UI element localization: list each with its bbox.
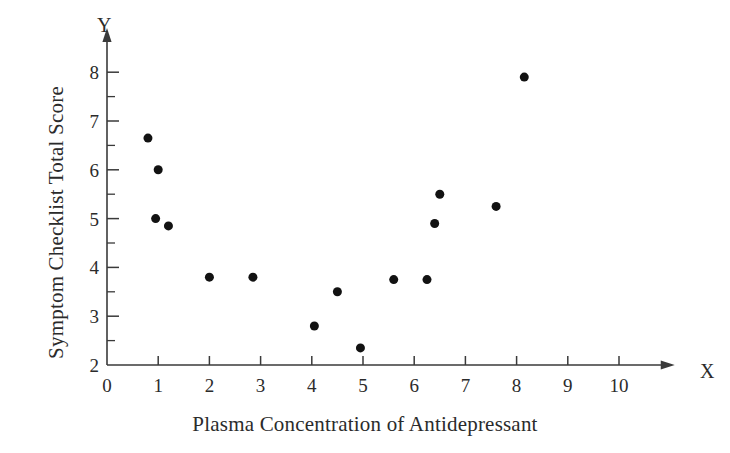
data-point: [143, 134, 152, 143]
x-tick-label: 0: [102, 376, 112, 395]
y-tick-label: 2: [77, 356, 99, 375]
x-axis-letter: X: [700, 360, 714, 383]
x-axis-title: Plasma Concentration of Antidepressant: [0, 412, 730, 437]
x-tick-label: 6: [409, 376, 419, 395]
data-point: [430, 219, 439, 228]
data-point: [205, 273, 214, 282]
x-tick-label: 3: [256, 376, 266, 395]
data-point: [333, 287, 342, 296]
ticks-group: [107, 72, 619, 365]
data-point: [248, 273, 257, 282]
data-point: [520, 73, 529, 82]
x-tick-label: 7: [461, 376, 471, 395]
data-point: [389, 275, 398, 284]
x-axis-arrow-icon: [661, 360, 675, 369]
x-tick-label: 2: [205, 376, 215, 395]
y-axis-title: Symptom Checklist Total Score: [44, 63, 69, 383]
data-point: [164, 221, 173, 230]
x-tick-label: 1: [153, 376, 163, 395]
data-point: [154, 165, 163, 174]
axes-group: [102, 28, 674, 369]
y-tick-label: 8: [77, 63, 99, 82]
data-point: [423, 275, 432, 284]
data-point: [151, 214, 160, 223]
x-tick-label: 8: [512, 376, 522, 395]
y-axis-letter: Y: [97, 14, 111, 37]
x-tick-label: 10: [610, 376, 629, 395]
data-point: [435, 190, 444, 199]
x-tick-label: 9: [563, 376, 573, 395]
data-point: [356, 343, 365, 352]
y-tick-label: 5: [77, 209, 99, 228]
x-tick-label: 4: [307, 376, 317, 395]
data-point: [492, 202, 501, 211]
y-tick-label: 7: [77, 112, 99, 131]
scatter-plot-figure: 0123456789102345678 Y X Plasma Concentra…: [0, 0, 730, 453]
y-tick-label: 4: [77, 258, 99, 277]
data-points-group: [143, 73, 528, 353]
y-tick-label: 6: [77, 160, 99, 179]
data-point: [310, 321, 319, 330]
y-tick-label: 3: [77, 307, 99, 326]
x-tick-label: 5: [358, 376, 368, 395]
